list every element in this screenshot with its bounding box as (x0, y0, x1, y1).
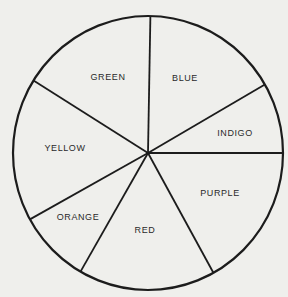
slice-label-blue: BLUE (172, 73, 198, 83)
slice-label-purple: PURPLE (200, 188, 240, 198)
slice-divider (30, 153, 148, 219)
slice-label-orange: ORANGE (57, 212, 100, 222)
slice-label-red: RED (135, 225, 156, 235)
slice-divider (148, 16, 150, 153)
slice-divider (148, 153, 213, 273)
slice-label-yellow: YELLOW (44, 143, 85, 153)
slice-label-green: GREEN (90, 72, 125, 82)
slice-label-indigo: INDIGO (217, 128, 253, 138)
pie-chart: GREEN BLUE INDIGO YELLOW PURPLE ORANGE R… (0, 0, 288, 297)
slice-divider (148, 85, 265, 154)
